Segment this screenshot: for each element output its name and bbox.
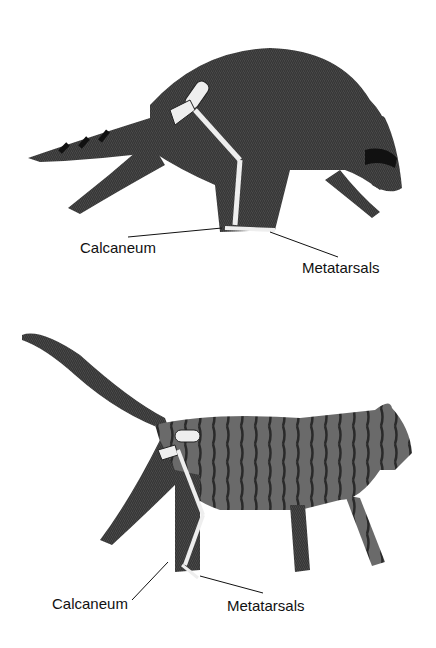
cat-metatarsals-label: Metatarsals <box>227 597 305 614</box>
raccoon-metatarsals-label: Metatarsals <box>302 259 380 276</box>
raccoon-illustration <box>0 0 436 300</box>
raccoon-calcaneum-label: Calcaneum <box>80 239 156 256</box>
cat-calcaneum-label: Calcaneum <box>52 595 128 612</box>
raccoon-figure: Calcaneum Metatarsals <box>0 0 436 300</box>
cat-figure: Calcaneum Metatarsals <box>0 300 436 648</box>
